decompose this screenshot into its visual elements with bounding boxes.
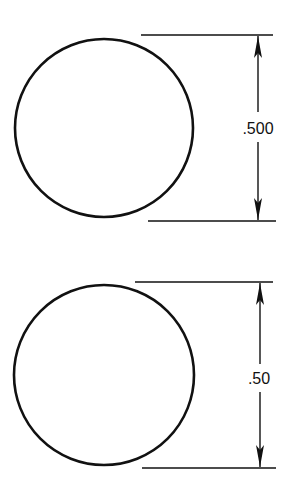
figure-2: .50 [14, 282, 276, 468]
dimension-label: .500 [242, 120, 273, 137]
dimension-label: .50 [248, 370, 270, 387]
figure-1: .500 [15, 35, 276, 221]
dimensioning-diagram: .500 .50 [0, 0, 289, 486]
circle-outline [15, 39, 193, 217]
circle-outline [14, 285, 194, 465]
